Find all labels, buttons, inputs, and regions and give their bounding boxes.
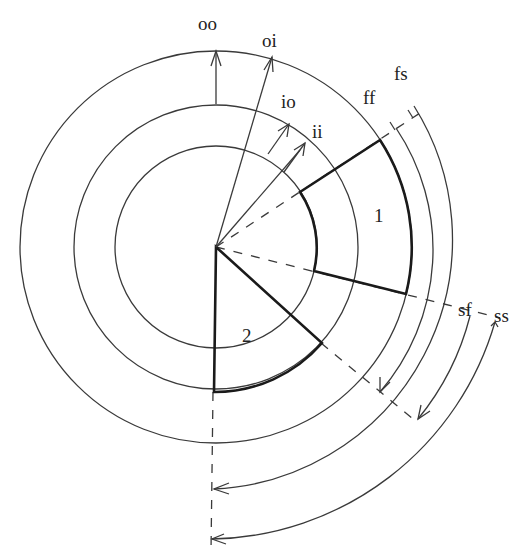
label-io: io bbox=[281, 91, 296, 112]
label-sf: sf bbox=[458, 299, 472, 320]
arrow-io bbox=[268, 124, 289, 154]
label-sector-2: 2 bbox=[242, 325, 252, 346]
label-oi: oi bbox=[262, 30, 277, 51]
arc-arrow-ff-head bbox=[380, 377, 390, 392]
arrow-ii bbox=[284, 143, 305, 172]
label-oo: oo bbox=[198, 13, 217, 34]
sector-2-outline bbox=[214, 247, 322, 392]
arrow-center-a bbox=[216, 150, 300, 247]
polar-sector-diagram: oo oi io ii ff fs sf ss 1 2 bbox=[0, 0, 527, 553]
label-fs: fs bbox=[394, 63, 408, 84]
label-ff: ff bbox=[363, 87, 376, 108]
dashed-ray-sector2-diag bbox=[321, 343, 418, 423]
label-ss: ss bbox=[494, 305, 509, 326]
tick-f1 bbox=[390, 122, 395, 130]
arrow-oi bbox=[216, 57, 272, 247]
label-sector-1: 1 bbox=[374, 205, 384, 226]
dashed-ray-vertical bbox=[211, 392, 213, 552]
arc-arrow-sf bbox=[418, 316, 470, 419]
tick-f2 bbox=[408, 110, 413, 118]
label-ii: ii bbox=[312, 121, 323, 142]
arc-arrow-ss bbox=[212, 322, 495, 539]
